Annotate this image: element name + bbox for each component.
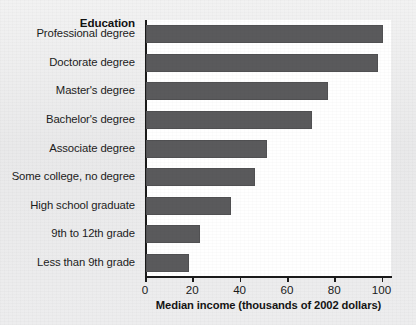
category-label: Professional degree <box>36 27 135 39</box>
bar <box>146 82 328 100</box>
x-tick-mark <box>382 277 384 282</box>
bars-layer <box>146 20 392 277</box>
x-tick-label: 80 <box>328 283 341 296</box>
x-tick-label: 100 <box>372 283 391 296</box>
category-label: Less than 9th grade <box>37 256 135 268</box>
bar <box>146 254 189 272</box>
bar <box>146 197 231 215</box>
bar <box>146 111 312 129</box>
category-label: Master's degree <box>56 84 135 96</box>
x-tick-mark <box>145 277 147 282</box>
x-tick-mark <box>240 277 242 282</box>
category-label: Bachelor's degree <box>46 113 135 125</box>
bar <box>146 54 378 72</box>
bar <box>146 225 200 243</box>
category-label: Associate degree <box>49 142 135 154</box>
category-label: Some college, no degree <box>12 170 135 182</box>
category-axis: Professional degreeDoctorate degreeMaste… <box>0 20 140 277</box>
category-label: 9th to 12th grade <box>51 227 135 239</box>
x-tick-mark <box>192 277 194 282</box>
x-tick-mark <box>287 277 289 282</box>
chart-figure: Education Professional degreeDoctorate d… <box>0 0 416 325</box>
x-tick-label: 40 <box>233 283 246 296</box>
bar <box>146 25 383 43</box>
bar <box>146 140 267 158</box>
category-label: High school graduate <box>30 199 135 211</box>
x-tick-label: 20 <box>186 283 199 296</box>
x-tick-label: 0 <box>142 283 148 296</box>
category-label: Doctorate degree <box>49 56 135 68</box>
x-axis-title: Median income (thousands of 2002 dollars… <box>145 299 392 311</box>
x-tick-label: 60 <box>280 283 293 296</box>
x-tick-mark <box>334 277 336 282</box>
bar <box>146 168 255 186</box>
